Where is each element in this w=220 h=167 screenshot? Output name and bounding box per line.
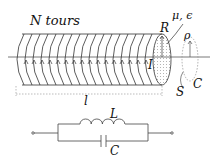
inductor [80,119,125,124]
contour-label: C [193,78,202,90]
inductor-label: L [110,108,118,120]
length-label: l [84,95,88,107]
lc-circuit [32,119,173,147]
material-label: μ, ϵ [172,10,192,21]
coil-turns [17,34,152,85]
current-label: I [148,59,153,71]
turns-label: N tours [30,14,80,27]
solenoid-diagram: N tours R μ, ϵ I l ρ S C L C [0,0,220,167]
radius-label: R [160,22,169,34]
capacitor-label: C [110,145,119,157]
left-terminal [32,132,34,134]
material-pointer [167,24,183,44]
surface-label: S [176,86,184,98]
right-terminal [171,132,173,134]
rho-label: ρ [184,30,190,41]
